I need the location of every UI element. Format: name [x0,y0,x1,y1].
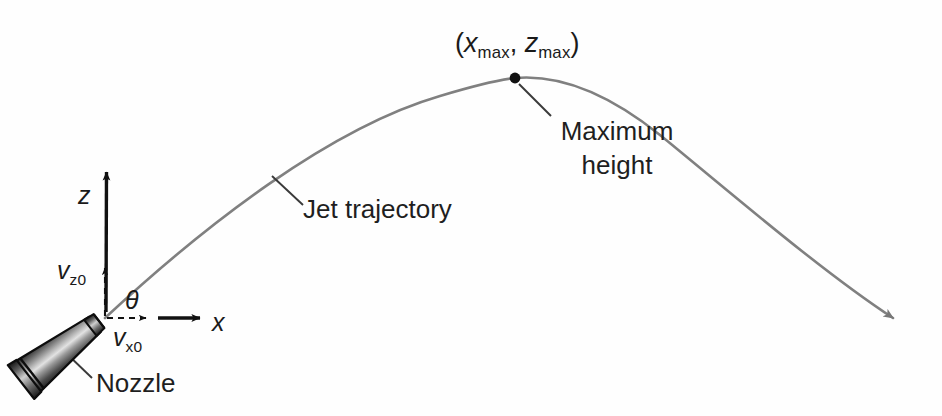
vz0-subscript: z0 [70,271,87,288]
vx0-symbol: v [113,323,126,351]
vz0-symbol: v [57,256,70,284]
paren-open: ( [455,28,464,58]
jet-trajectory-label: Jet trajectory [303,196,452,222]
nozzle-label: Nozzle [96,370,175,396]
maximum-height-line-1: Maximum [522,118,712,144]
maximum-height-point [510,73,521,84]
vx0-subscript: x0 [126,338,143,355]
vx0-label: vx0 [113,325,142,350]
launch-angle-label: θ [125,288,139,313]
maximum-height-leader-line [519,84,551,116]
apex-z-subscript: max [538,43,570,62]
z-axis-arrow [106,172,107,312]
apex-x-symbol: x [464,28,478,58]
jet-trajectory-curve [105,78,893,318]
z-axis-label: z [78,183,91,208]
apex-x-subscript: max [478,43,510,62]
jet-trajectory-figure: z x vz0 vx0 θ (xmax, zmax) Maximum heigh… [0,0,942,416]
vz0-label: vz0 [57,258,86,283]
x-axis-label: x [212,310,225,335]
maximum-height-line-2: height [522,152,712,178]
apex-coordinate-label: (xmax, zmax) [455,30,579,57]
paren-close: ) [570,28,579,58]
coord-comma: , [510,28,525,58]
maximum-height-label: Maximum height [522,118,712,178]
apex-z-symbol: z [525,28,539,58]
jet-trajectory-leader-line [272,176,303,205]
